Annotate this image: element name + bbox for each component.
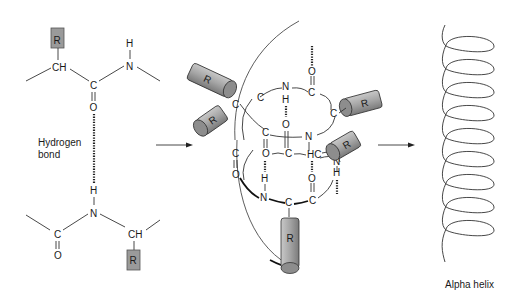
h-atom: H xyxy=(261,173,268,184)
arrow-right-icon xyxy=(156,143,193,148)
c-atom: C xyxy=(308,87,315,98)
h-atom: H xyxy=(282,94,289,105)
alpha-helix-coil: Alpha helix xyxy=(442,25,494,290)
hydrogen-bond-label-2: bond xyxy=(38,149,60,160)
r-label: R xyxy=(54,35,61,46)
o-atom: O xyxy=(232,169,240,180)
c-atom: C xyxy=(285,197,292,208)
o-atom: O xyxy=(308,66,316,77)
n-atom: N xyxy=(260,192,267,203)
h-atom: H xyxy=(90,185,97,196)
alpha-helix-label: Alpha helix xyxy=(445,279,494,290)
o-atom: O xyxy=(308,173,316,184)
ch-atom: CH xyxy=(128,229,142,240)
c-atom: C xyxy=(257,92,264,103)
r-group-cylinder: R xyxy=(281,218,299,274)
n-atom: N xyxy=(126,61,133,72)
c-atom: C xyxy=(262,127,269,138)
carbonyl-c-atom: C xyxy=(90,80,97,91)
h-atom: H xyxy=(126,38,133,49)
c-atom: C xyxy=(330,108,337,119)
r-group-cylinder: R xyxy=(186,63,239,100)
r-label: R xyxy=(130,255,137,266)
carbonyl-o-atom: O xyxy=(54,250,62,261)
carbonyl-o-atom: O xyxy=(90,102,98,113)
alpha-helix-diagram: R CH C O H N Hydrogen bond H N C O CH R xyxy=(0,0,514,291)
ch-atom: CH xyxy=(52,62,66,73)
svg-text:R: R xyxy=(287,233,294,244)
r-group-cylinder: R xyxy=(323,130,361,163)
c-atom: C xyxy=(309,195,316,206)
o-atom: O xyxy=(262,148,270,159)
carbonyl-c-atom: C xyxy=(54,229,61,240)
r-group-cylinder: R xyxy=(190,105,228,139)
middle-helix-detail-panel: C N H O C O C C C N O C HC C O H N xyxy=(186,21,382,274)
n-atom: N xyxy=(305,131,312,142)
hc-atom: HC xyxy=(307,149,321,160)
hydrogen-bond-label: Hydrogen xyxy=(38,137,81,148)
o-atom: O xyxy=(282,119,290,130)
c-atom: C xyxy=(285,148,292,159)
n-atom: N xyxy=(90,208,97,219)
arrow-right-icon xyxy=(378,143,415,148)
c-atom: C xyxy=(232,148,239,159)
c-atom: C xyxy=(232,99,239,110)
left-peptide-panel: R CH C O H N Hydrogen bond H N C O CH R xyxy=(26,28,160,270)
r-group-cylinder: R xyxy=(337,90,382,118)
n-atom: N xyxy=(282,81,289,92)
